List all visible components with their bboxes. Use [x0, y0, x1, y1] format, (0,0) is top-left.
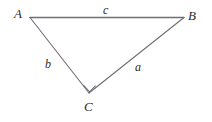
side-a-line-CB [89, 18, 184, 94]
vertex-label-a: A [14, 7, 22, 20]
side-b-line-AC [30, 18, 89, 94]
vertex-label-c: C [84, 100, 93, 113]
side-label-b: b [45, 58, 51, 70]
triangle-diagram: A B C c b a [0, 0, 212, 122]
side-label-a: a [135, 61, 141, 73]
triangle-figure [0, 0, 212, 122]
vertex-label-b: B [188, 9, 196, 22]
side-label-c: c [103, 4, 108, 16]
